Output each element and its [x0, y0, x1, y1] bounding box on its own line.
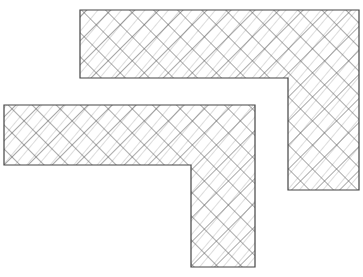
lower-l-shape	[4, 105, 255, 267]
diagram-canvas	[0, 0, 363, 277]
hatch-fill	[4, 105, 255, 267]
